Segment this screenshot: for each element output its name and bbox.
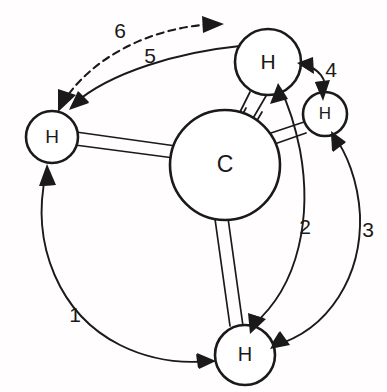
atom-hydrogen-bottom[interactable]: H [215,325,275,385]
hydrogen-bottom-label: H [238,343,252,365]
hydrogen-left-label: H [45,126,59,147]
arrow-4-number: 4 [325,58,337,81]
methane-permutation-figure: C H H H H [0,0,387,392]
arrow-3 [269,131,360,348]
arrow-6-number: 6 [114,19,126,42]
hydrogen-right-label: H [319,104,331,123]
arrow-3-number: 3 [362,218,374,241]
atom-hydrogen-top[interactable]: H [235,29,301,95]
arrow-2-number: 2 [299,215,311,238]
arrow-3-head [331,131,346,152]
arrow-5-number: 5 [144,44,156,67]
atom-group: C H H H H [26,29,347,385]
arrow-1-number: 1 [69,303,81,326]
bond-carbon-hydrogen-left [75,132,176,158]
atom-carbon-center[interactable]: C [170,110,280,220]
arrow-6-head-top [202,16,224,33]
bond-carbon-hydrogen-bottom [215,218,243,326]
arrow-1-head [197,353,216,369]
arrow-1-tail-head [39,164,56,186]
atom-hydrogen-left[interactable]: H [26,111,78,163]
arrow-3-tail-head [270,331,290,349]
molecule-diagram-canvas: C H H H H [0,0,387,392]
arrow-6-head-left [58,89,76,112]
hydrogen-top-label: H [260,50,275,73]
atom-hydrogen-right[interactable]: H [303,92,347,136]
carbon-center-label: C [217,151,234,177]
